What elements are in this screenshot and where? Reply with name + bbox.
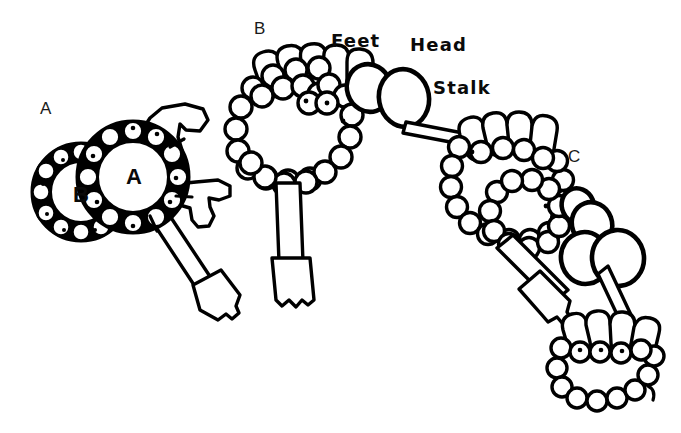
stalk-label: Stalk xyxy=(433,79,491,97)
figure-line-art xyxy=(0,0,681,433)
feet-label: Feet xyxy=(331,32,380,50)
panel-label-a: A xyxy=(40,100,52,117)
figure-root: A B C A B Feet Head Stalk xyxy=(0,0,681,433)
ring-center-label-a: A xyxy=(126,166,142,188)
panel-label-b: B xyxy=(254,20,266,37)
panel-label-c: C xyxy=(568,148,581,165)
ring-center-label-b: B xyxy=(73,184,89,206)
head-label: Head xyxy=(410,36,467,54)
